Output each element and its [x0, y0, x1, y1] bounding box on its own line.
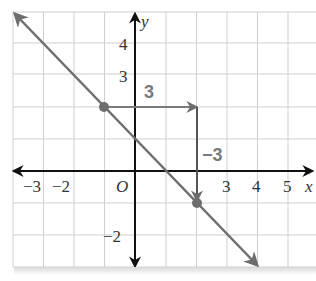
run-label: 3 [144, 82, 154, 102]
rise-label: −3 [202, 145, 223, 165]
y-tick-neg2: −2 [103, 227, 121, 246]
grid [13, 12, 316, 267]
x-tick-neg2: −2 [52, 177, 70, 196]
point-2-neg1 [192, 198, 202, 208]
origin-label: O [116, 177, 128, 196]
x-tick-3: 3 [222, 177, 231, 196]
coordinate-plane: y x O −3 −2 3 4 5 4 3 −2 3 −3 [0, 0, 316, 281]
x-tick-5: 5 [283, 177, 292, 196]
y-tick-4: 4 [119, 35, 128, 54]
x-axis-label: x [304, 177, 313, 196]
point-neg1-2 [99, 102, 109, 112]
y-axis-label: y [139, 12, 149, 31]
x-tick-neg3: −3 [23, 177, 41, 196]
x-tick-4: 4 [252, 177, 261, 196]
bottom-shadow [14, 267, 316, 275]
y-tick-3: 3 [119, 67, 128, 86]
